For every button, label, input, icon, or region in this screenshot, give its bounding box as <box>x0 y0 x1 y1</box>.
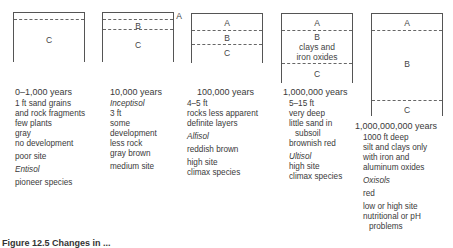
species: climax species <box>187 168 258 178</box>
note: few plants <box>15 119 85 129</box>
site-quality: high site <box>187 158 258 168</box>
age-label: 10,000 years <box>110 87 162 97</box>
note: development <box>110 129 162 139</box>
note: with iron and <box>355 153 437 163</box>
horizon-label-b: B <box>282 32 352 42</box>
horizon-boundary <box>282 30 352 31</box>
site-quality: medium site <box>110 162 162 172</box>
site-quality: low or high site <box>355 202 437 212</box>
note: and rock fragments <box>15 109 85 119</box>
horizon-label-a: A <box>372 18 442 28</box>
note: rocks less apparent <box>187 109 258 119</box>
note: less rock <box>110 139 162 149</box>
note: aluminum oxides <box>355 163 437 173</box>
note: 3 ft <box>110 109 162 119</box>
note: 4–5 ft <box>187 99 258 109</box>
profile-notes-1: 0–1,000 years 1 ft sand grains and rock … <box>15 87 85 188</box>
profile-notes-2: 10,000 years Inceptisol 3 ft some develo… <box>110 87 162 172</box>
horizon-label-a: A <box>192 18 262 28</box>
horizon-label-b: B <box>372 59 442 69</box>
note: no development <box>15 139 85 149</box>
soil-order: Entisol <box>15 165 85 175</box>
site-quality: poor site <box>15 152 85 162</box>
age-label: 1,000,000,000 years <box>355 121 437 131</box>
note: some <box>110 119 162 129</box>
soil-order: Inceptisol <box>110 99 162 109</box>
profile-box-5: A B C <box>371 13 443 116</box>
horizon-label-c: C <box>282 69 352 79</box>
profile-box-2: B C A <box>102 12 174 62</box>
horizon-label-c: C <box>192 48 262 58</box>
soil-order: Oxisols <box>355 176 437 186</box>
age-label: 0–1,000 years <box>15 87 85 97</box>
note: 5–15 ft <box>283 99 348 109</box>
note: very deep <box>283 109 348 119</box>
note: 1000 ft deep <box>355 133 437 143</box>
horizon-boundary <box>14 19 84 20</box>
soil-order: Ultisol <box>283 152 348 162</box>
note: 1 ft sand grains <box>15 99 85 109</box>
note: definite layers <box>187 119 258 129</box>
b-horizon-note: clays and <box>282 42 352 52</box>
site-quality: high site <box>283 162 348 172</box>
horizon-boundary <box>372 100 442 101</box>
species: climax species <box>283 172 348 182</box>
horizon-label-c: C <box>372 105 442 115</box>
soil-color: red <box>355 189 437 199</box>
horizon-boundary <box>372 30 442 31</box>
b-horizon-note: iron oxides <box>282 52 352 62</box>
profile-box-1: C <box>13 12 85 62</box>
note: brownish red <box>283 139 348 149</box>
figure-caption: Figure 12.5 Changes in ... <box>2 238 111 248</box>
horizon-boundary <box>282 63 352 64</box>
soil-order: Alfisol <box>187 132 258 142</box>
horizon-boundary <box>103 29 173 30</box>
note: little sand in <box>283 119 348 129</box>
profile-notes-3: 100,000 years 4–5 ft rocks less apparent… <box>187 87 258 178</box>
horizon-label-a: A <box>176 11 182 21</box>
profile-notes-5: 1,000,000,000 years 1000 ft deep silt an… <box>355 121 437 232</box>
note: silt and clays only <box>355 143 437 153</box>
horizon-label-c: C <box>14 35 84 45</box>
profile-box-3: A B C <box>191 13 263 63</box>
horizon-boundary <box>192 44 262 45</box>
profile-box-4: A B clays and iron oxides C <box>281 13 353 83</box>
note: gray <box>15 129 85 139</box>
age-label: 100,000 years <box>187 87 258 97</box>
age-label: 1,000,000 years <box>283 87 348 97</box>
horizon-boundary <box>192 30 262 31</box>
site-quality: nutritional or pH <box>355 212 437 222</box>
horizon-boundary <box>103 19 173 20</box>
species: pioneer species <box>15 178 85 188</box>
site-quality: problems <box>355 222 437 232</box>
horizon-label-a: A <box>282 18 352 28</box>
horizon-label-c: C <box>103 40 173 50</box>
note: gray brown <box>110 149 162 159</box>
profile-notes-4: 1,000,000 years 5–15 ft very deep little… <box>283 87 348 182</box>
soil-color: reddish brown <box>187 145 258 155</box>
horizon-label-b: B <box>192 33 262 43</box>
note: subsoil <box>283 129 348 139</box>
